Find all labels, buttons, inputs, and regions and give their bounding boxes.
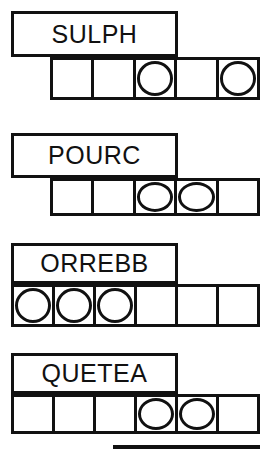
answer-cell-strip [50, 178, 260, 216]
answer-cell-strip [11, 394, 260, 434]
answer-cell[interactable] [178, 287, 219, 324]
answer-cell-circled[interactable] [219, 60, 257, 97]
answer-cell[interactable] [94, 60, 135, 97]
answer-cell[interactable] [94, 181, 135, 213]
answer-cell[interactable] [219, 181, 257, 213]
answer-cell[interactable] [14, 397, 55, 431]
answer-cell-circled[interactable] [14, 287, 55, 324]
answer-cell[interactable] [219, 287, 257, 324]
partial-next-block-top-edge [113, 445, 260, 449]
word-label-text: POURC [48, 143, 141, 168]
answer-cell[interactable] [55, 397, 96, 431]
answer-cell-strip [11, 284, 260, 327]
answer-cell[interactable] [96, 397, 137, 431]
answer-cell[interactable] [53, 181, 94, 213]
answer-cell[interactable] [137, 287, 178, 324]
word-label-box: QUETEA [11, 353, 178, 394]
answer-cell-circled[interactable] [96, 287, 137, 324]
answer-cell[interactable] [177, 60, 218, 97]
word-label-text: SULPH [52, 22, 138, 47]
word-label-box: ORREBB [11, 243, 178, 284]
answer-cell-circled[interactable] [177, 181, 218, 213]
word-label-text: ORREBB [40, 251, 149, 276]
word-label-box: SULPH [11, 11, 178, 57]
worksheet-page: SULPHPOURCORREBBQUETEA [0, 0, 273, 453]
answer-cell-circled[interactable] [178, 397, 219, 431]
answer-cell[interactable] [219, 397, 257, 431]
answer-cell-circled[interactable] [136, 181, 177, 213]
answer-cell[interactable] [53, 60, 94, 97]
answer-cell-strip [50, 57, 260, 100]
answer-cell-circled[interactable] [55, 287, 96, 324]
word-label-box: POURC [11, 133, 178, 178]
answer-cell-circled[interactable] [137, 397, 178, 431]
word-label-text: QUETEA [42, 361, 148, 386]
answer-cell-circled[interactable] [136, 60, 177, 97]
